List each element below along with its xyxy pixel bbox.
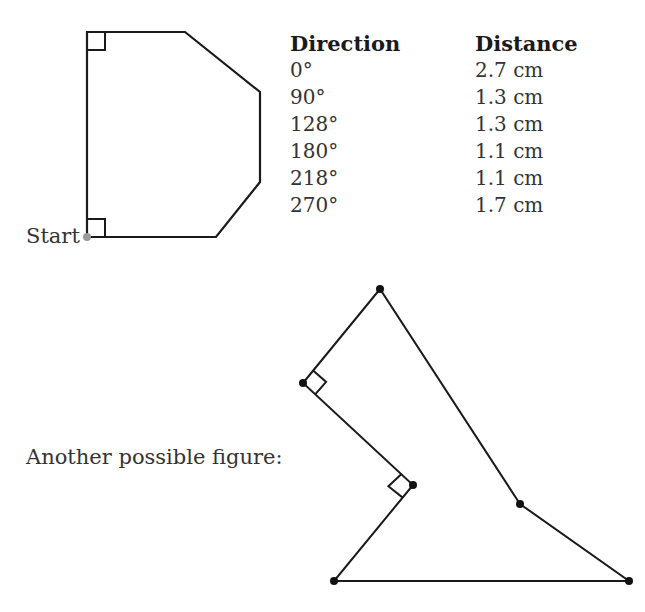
vertex-dot [299,379,307,387]
direction-cell: 218° [290,165,400,192]
figure-2 [299,285,633,585]
figure-1-outline [87,32,260,237]
distance-cell: 1.7 cm [475,192,578,219]
direction-cell: 180° [290,138,400,165]
distance-column: Distance 2.7 cm 1.3 cm 1.3 cm 1.1 cm 1.1… [475,30,578,219]
distance-cell: 1.3 cm [475,111,578,138]
distance-cell: 2.7 cm [475,57,578,84]
vertex-dot [409,481,417,489]
vertex-dot [516,500,524,508]
figure-1 [83,32,260,241]
direction-column: Direction 0° 90° 128° 180° 218° 270° [290,30,400,219]
direction-cell: 0° [290,57,400,84]
start-label: Start [26,226,80,247]
right-angle-mark-lower [388,474,402,497]
distance-cell: 1.3 cm [475,84,578,111]
distance-cell: 1.1 cm [475,165,578,192]
vertex-dot [625,577,633,585]
direction-header: Direction [290,30,400,57]
figure-2-outline [303,289,629,581]
another-figure-caption: Another possible figure: [26,447,283,468]
direction-cell: 128° [290,111,400,138]
vertex-dot [330,577,338,585]
direction-cell: 90° [290,84,400,111]
vertex-dot [376,285,384,293]
right-angle-mark-top-left [87,32,105,50]
start-point-dot [83,233,91,241]
distance-cell: 1.1 cm [475,138,578,165]
distance-header: Distance [475,30,578,57]
right-angle-mark-upper [313,371,326,395]
direction-cell: 270° [290,192,400,219]
